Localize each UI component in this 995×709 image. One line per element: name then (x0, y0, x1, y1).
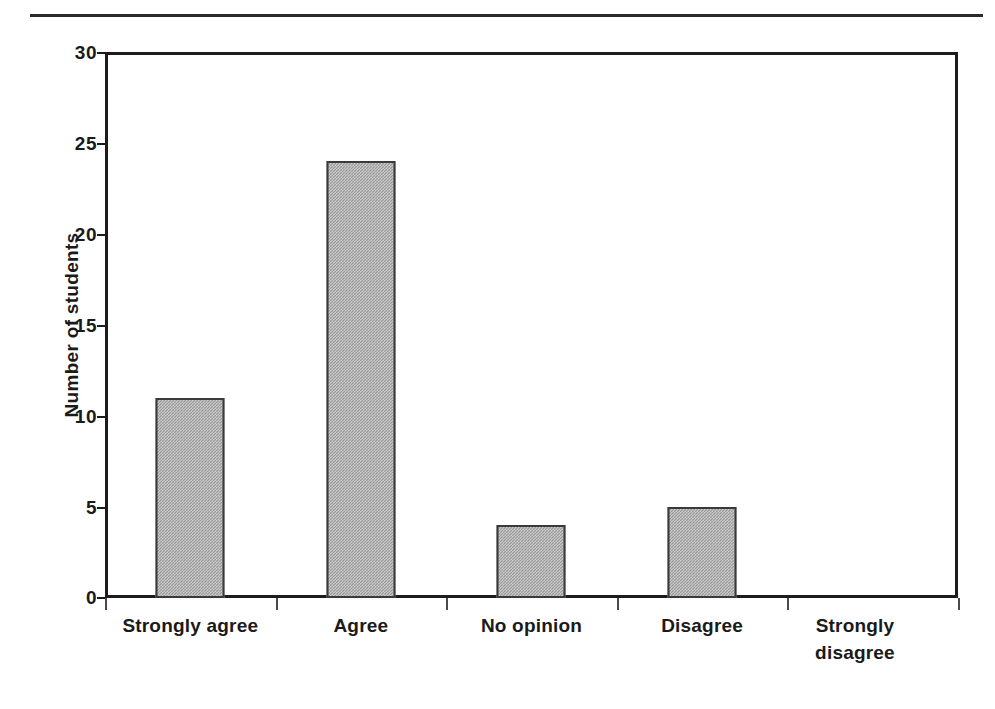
bar-no-opinion[interactable] (497, 525, 566, 598)
y-tick-label-10: 10 (0, 406, 97, 428)
y-tick-label-20: 20 (0, 224, 97, 246)
y-tick-label-0: 0 (0, 587, 97, 609)
x-label-strongly-agree: Strongly agree (105, 612, 276, 639)
x-label-disagree: Disagree (617, 612, 788, 639)
x-label-no-opinion: No opinion (446, 612, 617, 639)
y-tick-label-25: 25 (0, 133, 97, 155)
x-tick-mark-2 (446, 598, 448, 610)
y-tick-label-15: 15 (0, 315, 97, 337)
x-tick-mark-5 (958, 598, 960, 610)
bar-disagree[interactable] (668, 507, 737, 598)
x-label-agree: Agree (276, 612, 447, 639)
bars-layer (105, 52, 958, 598)
bar-slot-no-opinion (446, 52, 617, 598)
bar-chart: Number of students 30 25 20 15 10 5 0 (0, 0, 995, 709)
bar-slot-agree (276, 52, 447, 598)
bar-strongly-agree[interactable] (156, 398, 225, 598)
x-tick-mark-4 (787, 598, 789, 610)
y-tick-label-5: 5 (0, 497, 97, 519)
y-tick-label-30: 30 (0, 42, 97, 64)
x-tick-mark-1 (276, 598, 278, 610)
bar-agree[interactable] (326, 161, 395, 598)
x-tick-mark-0 (105, 598, 107, 610)
bar-slot-strongly-agree (105, 52, 276, 598)
x-label-strongly-disagree: Strongly disagree (800, 612, 910, 666)
bar-slot-strongly-disagree (787, 52, 958, 598)
x-tick-mark-3 (617, 598, 619, 610)
bar-slot-disagree (617, 52, 788, 598)
